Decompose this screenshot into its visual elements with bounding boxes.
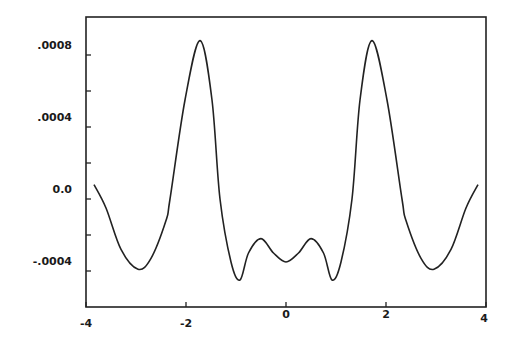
plot-frame [86, 17, 486, 307]
x-tick-label: -4 [80, 317, 93, 330]
x-tick-label: 0 [282, 308, 290, 321]
y-axis-labels: .0008.00040.0-.0004 [33, 39, 73, 268]
x-tick-label: 4 [480, 312, 488, 325]
x-axis-labels: -4-2024 [80, 308, 488, 330]
x-tick-label: 2 [382, 308, 390, 321]
chart-plot: .0008.00040.0-.0004 -4-2024 [0, 0, 509, 340]
y-tick-label: .0004 [37, 111, 72, 124]
y-tick-label: .0008 [37, 39, 72, 52]
x-tick-label: -2 [180, 317, 192, 330]
y-tick-label: -.0004 [33, 255, 73, 268]
y-tick-label: 0.0 [53, 183, 73, 196]
data-curve [94, 41, 478, 281]
